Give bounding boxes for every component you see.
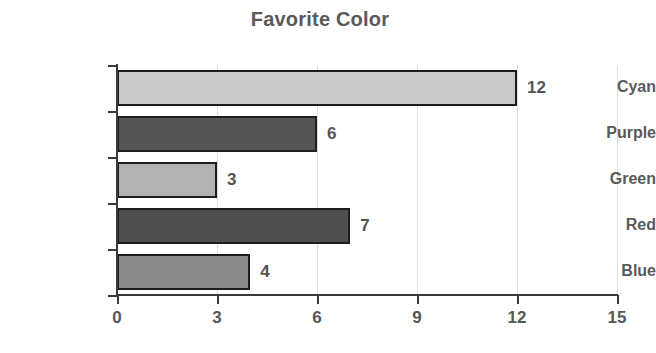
x-axis-tick	[117, 295, 119, 304]
x-axis-tick	[317, 295, 319, 304]
bar-row: 4	[117, 254, 617, 290]
bar-value-label-red: 7	[360, 216, 369, 236]
x-axis-label-12: 12	[487, 308, 547, 328]
category-label-blue: Blue	[552, 262, 656, 280]
bar-chart: Favorite Color 126374 CyanPurpleGreenRed…	[0, 0, 656, 353]
bar-row: 12	[117, 70, 617, 106]
x-axis-tick	[617, 295, 619, 304]
x-axis-label-0: 0	[87, 308, 147, 328]
bar-purple[interactable]	[117, 116, 317, 152]
x-axis-line	[116, 294, 618, 296]
y-axis-line	[116, 64, 118, 296]
x-axis-tick	[217, 295, 219, 304]
bar-value-label-purple: 6	[327, 124, 336, 144]
x-axis-label-9: 9	[387, 308, 447, 328]
x-axis-tick	[517, 295, 519, 304]
x-axis-tick	[417, 295, 419, 304]
bar-row: 6	[117, 116, 617, 152]
chart-title: Favorite Color	[0, 8, 640, 31]
category-label-red: Red	[552, 216, 656, 234]
category-label-green: Green	[552, 170, 656, 188]
bar-red[interactable]	[117, 208, 350, 244]
x-axis-label-6: 6	[287, 308, 347, 328]
bar-row: 7	[117, 208, 617, 244]
bar-cyan[interactable]	[117, 70, 517, 106]
bar-blue[interactable]	[117, 254, 250, 290]
bar-row: 3	[117, 162, 617, 198]
bar-green[interactable]	[117, 162, 217, 198]
x-axis-label-15: 15	[587, 308, 647, 328]
bar-value-label-cyan: 12	[527, 78, 546, 98]
category-label-cyan: Cyan	[552, 78, 656, 96]
category-label-purple: Purple	[552, 124, 656, 142]
bar-value-label-blue: 4	[260, 262, 269, 282]
bar-value-label-green: 3	[227, 170, 236, 190]
x-axis-label-3: 3	[187, 308, 247, 328]
